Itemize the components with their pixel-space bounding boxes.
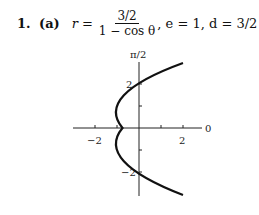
x-tick-label-neg2: −2 [87, 135, 102, 146]
axis-label-zero: 0 [205, 123, 211, 134]
x-tick-label-2: 2 [179, 135, 185, 146]
axis-label-pi-over-2: π/2 [130, 49, 146, 60]
polar-graph: −2 2 2 −2 0 π/2 [0, 0, 259, 215]
